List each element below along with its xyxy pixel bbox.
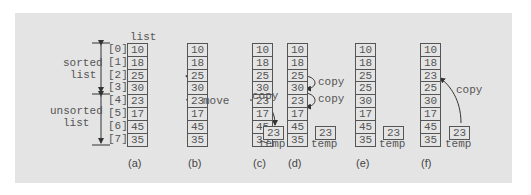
index-label: [6] [108,120,128,132]
step-caption: (e) [356,157,369,169]
sorted-label-1: sorted [63,57,103,69]
sorted-label-2: list [70,69,96,81]
index-label: [4] [108,94,128,106]
copy-label-d2: copy [318,93,344,105]
index-label: [1] [108,56,128,68]
step-caption: (a) [128,157,141,169]
step-caption: (f) [421,157,431,169]
copy-label-c: copy [252,90,278,102]
temp-label: temp [379,138,405,150]
step-caption: (b) [188,157,201,169]
array-cell: 35 [420,133,441,147]
unsorted-label-1: unsorted [50,105,103,117]
temp-label: temp [259,138,285,150]
unsorted-label-2: list [63,117,89,129]
index-label: [0] [108,43,128,55]
index-label: [5] [108,107,128,119]
array-cell: 35 [187,133,208,147]
temp-label: temp [445,138,471,150]
step-caption: (c) [253,157,266,169]
array-cell: 35 [287,133,308,147]
array-cell: 35 [127,133,148,147]
temp-label: temp [311,138,337,150]
index-label: [7] [108,133,128,145]
copy-label-d1: copy [318,76,344,88]
array-cell: 35 [355,133,376,147]
move-label: move [203,95,229,107]
list-header: list [130,31,156,43]
step-caption: (d) [288,157,301,169]
copy-label-f: copy [456,84,482,96]
index-label: [2] [108,69,128,81]
index-label: [3] [108,81,128,93]
